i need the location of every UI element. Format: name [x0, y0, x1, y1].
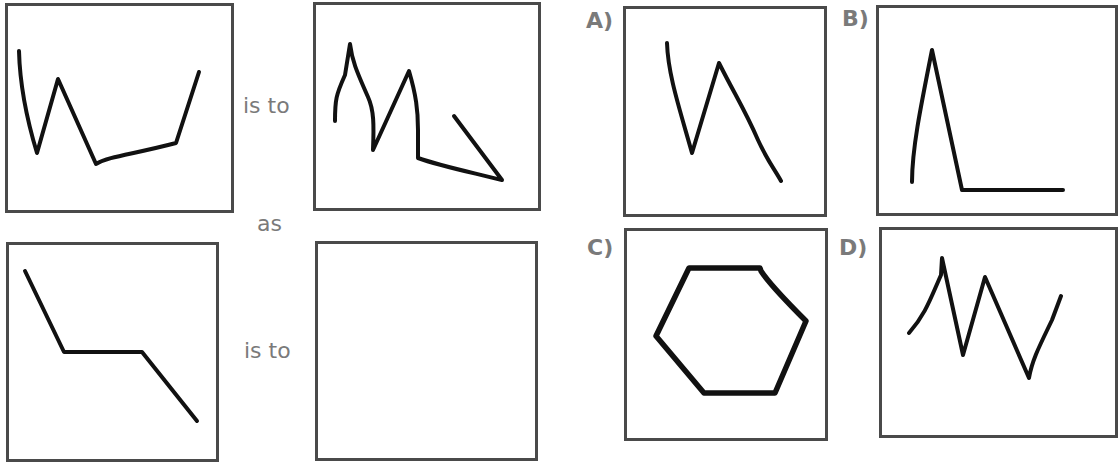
- option-c-hexagon-icon: [656, 268, 806, 393]
- figure-1-w-line-icon: [19, 51, 199, 164]
- option-b-figure-icon: [912, 50, 1063, 190]
- option-d-figure-icon: [909, 258, 1061, 378]
- figure-3-step-line-icon: [25, 271, 197, 421]
- figure-2-m-hook-icon: [335, 44, 502, 180]
- option-a-figure-icon: [667, 43, 781, 181]
